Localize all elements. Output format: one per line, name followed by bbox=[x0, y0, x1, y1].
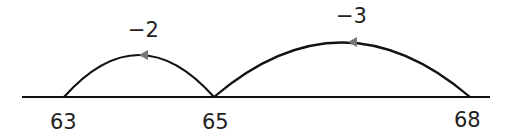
tick-label: 68 bbox=[454, 110, 481, 131]
tick-label: 63 bbox=[50, 112, 77, 133]
jump-label: −3 bbox=[336, 6, 367, 27]
arrowhead-left-icon bbox=[139, 50, 148, 60]
arrowhead-left-icon bbox=[348, 37, 357, 47]
jump-label: −2 bbox=[128, 20, 159, 41]
jump-arc-minus-3 bbox=[214, 43, 470, 98]
jump-arc-minus-2 bbox=[64, 55, 214, 97]
tick-label: 65 bbox=[202, 112, 229, 133]
